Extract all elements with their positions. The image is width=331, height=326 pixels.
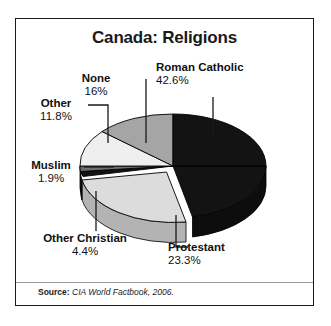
slice-label-other: Other 11.8% [24, 97, 88, 123]
slice-label-roman-catholic: Roman Catholic 42.6% [156, 61, 276, 87]
slice-label-other-christian: Other Christian 4.4% [26, 232, 144, 258]
slice-label-muslim: Muslim 1.9% [18, 159, 84, 185]
slice-label-roman-catholic-name: Roman Catholic [156, 61, 276, 74]
slice-roman-catholic-upper [173, 114, 266, 166]
slice-label-roman-catholic-value: 42.6% [156, 74, 276, 87]
source-label: Source: [38, 287, 70, 297]
source-value: CIA World Factbook, 2006. [72, 287, 174, 297]
slice-label-none-name: None [64, 72, 128, 85]
slice-label-protestant-value: 23.3% [168, 254, 274, 267]
source-note: Source: CIA World Factbook, 2006. [38, 287, 174, 297]
slice-label-other-value: 11.8% [24, 110, 88, 123]
slice-label-other-name: Other [24, 97, 88, 110]
slice-label-muslim-name: Muslim [18, 159, 84, 172]
slice-label-muslim-value: 1.9% [18, 172, 84, 185]
chart-figure: Canada: Religions [15, 18, 314, 306]
slice-label-other-christian-name: Other Christian [26, 232, 144, 245]
slice-label-other-christian-value: 4.4% [26, 245, 144, 258]
slice-label-none: None 16% [64, 72, 128, 98]
slice-label-protestant: Protestant 23.3% [168, 241, 274, 267]
source-divider [16, 282, 313, 283]
slice-label-none-value: 16% [64, 85, 128, 98]
slice-label-protestant-name: Protestant [168, 241, 274, 254]
